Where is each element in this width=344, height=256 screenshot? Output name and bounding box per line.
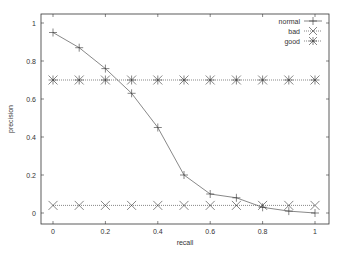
legend-label: bad [288, 28, 300, 35]
cross-marker-icon [49, 201, 58, 210]
y-tick-label: 1 [32, 20, 36, 27]
plus-marker-icon [232, 194, 240, 202]
star-marker-icon [258, 76, 267, 85]
star-marker-icon [309, 37, 317, 45]
legend-label: normal [279, 18, 301, 25]
y-tick-label: 0.4 [26, 134, 36, 141]
cross-marker-icon [127, 201, 136, 210]
precision-recall-chart: 00.20.40.60.81 00.20.40.60.81 recall pre… [0, 0, 344, 256]
plus-marker-icon [311, 209, 319, 217]
legend-item-bad: bad [288, 27, 322, 35]
series-layer [49, 29, 320, 218]
series-normal [49, 29, 319, 218]
legend: normalbadgood [279, 17, 322, 46]
star-marker-icon [153, 76, 162, 85]
star-marker-icon [75, 76, 84, 85]
x-tick-label: 0.8 [258, 228, 268, 235]
legend-label: good [284, 38, 300, 46]
x-axis-ticks: 00.20.40.60.81 [51, 14, 317, 235]
plus-marker-icon [259, 203, 267, 211]
star-marker-icon [101, 76, 110, 85]
x-axis-label: recall [177, 239, 194, 246]
plus-marker-icon [309, 17, 317, 25]
x-tick-label: 0.6 [205, 228, 215, 235]
series-good [49, 76, 320, 85]
y-tick-label: 0 [32, 210, 36, 217]
star-marker-icon [311, 76, 320, 85]
star-marker-icon [206, 76, 215, 85]
y-tick-label: 0.2 [26, 172, 36, 179]
plus-marker-icon [75, 44, 83, 52]
legend-item-good: good [284, 37, 322, 46]
x-tick-label: 1 [313, 228, 317, 235]
series-bad [49, 201, 320, 210]
cross-marker-icon [153, 201, 162, 210]
plus-marker-icon [180, 171, 188, 179]
star-marker-icon [232, 76, 241, 85]
x-tick-label: 0.4 [153, 228, 163, 235]
y-axis-ticks: 00.20.40.60.81 [26, 20, 329, 217]
plus-marker-icon [206, 190, 214, 198]
star-marker-icon [49, 76, 58, 85]
plus-marker-icon [154, 124, 162, 132]
x-tick-label: 0.2 [101, 228, 111, 235]
x-tick-label: 0 [51, 228, 55, 235]
cross-marker-icon [101, 201, 110, 210]
star-marker-icon [180, 76, 189, 85]
y-tick-label: 0.8 [26, 58, 36, 65]
cross-marker-icon [75, 201, 84, 210]
plot-frame [41, 14, 329, 224]
y-axis-label: precision [7, 105, 15, 133]
star-marker-icon [127, 76, 136, 85]
legend-item-normal: normal [279, 17, 322, 25]
star-marker-icon [284, 76, 293, 85]
plus-marker-icon [49, 29, 57, 37]
y-tick-label: 0.6 [26, 96, 36, 103]
